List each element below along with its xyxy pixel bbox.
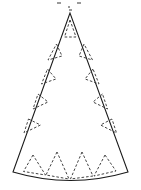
cone-net-outline	[13, 13, 128, 181]
speck-1	[57, 2, 61, 4]
cone-net-canvas	[0, 0, 141, 190]
speck-4	[69, 9, 72, 11]
speck-2	[77, 2, 81, 4]
scan-specks	[57, 2, 81, 11]
cone-net-figure: Cone net pattern Unrolled cone (party ha…	[0, 0, 141, 190]
speck-3	[68, 6, 70, 8]
